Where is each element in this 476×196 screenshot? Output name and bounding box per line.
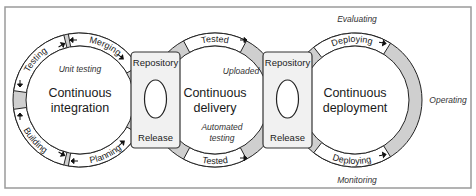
repository-2-label: Repository — [265, 57, 311, 68]
cd-label-tested-bottom: Tested — [201, 155, 228, 166]
repository-box-1: Repository Release — [131, 52, 180, 148]
cd-inner-note-uploaded: Uploaded — [223, 66, 260, 76]
cd-inner-note-automated: Automated — [200, 122, 242, 132]
cdep-note-operating: Operating — [429, 95, 467, 105]
devops-pipeline-diagram: Unit testing Continuous integration Uplo… — [0, 0, 476, 196]
cdep-note-monitoring: Monitoring — [337, 175, 377, 185]
ci-ring: Unit testing Continuous integration — [13, 33, 147, 167]
release-2-label: Release — [270, 132, 305, 143]
cdep-title-line1: Continuous — [323, 86, 386, 100]
ci-inner-note: Unit testing — [59, 64, 102, 74]
ci-title-line1: Continuous — [48, 86, 111, 100]
cd-label-tested-top: Tested — [200, 34, 229, 45]
ci-ring-inner — [26, 46, 134, 154]
cd-inner-note-testing: testing — [209, 133, 234, 143]
repository-box-2: Repository Release — [263, 52, 312, 148]
cdep-ring-inner — [301, 46, 409, 154]
ci-title-line2: integration — [51, 101, 109, 115]
repository-1-label: Repository — [133, 57, 179, 68]
cdep-title-line2: deployment — [323, 101, 388, 115]
cdep-note-evaluating: Evaluating — [337, 14, 377, 24]
release-1-label: Release — [138, 132, 173, 143]
repository-2-oval — [277, 80, 299, 118]
repository-1-oval — [145, 80, 167, 118]
cd-title-line2: delivery — [193, 101, 237, 115]
cd-title-line1: Continuous — [183, 86, 246, 100]
